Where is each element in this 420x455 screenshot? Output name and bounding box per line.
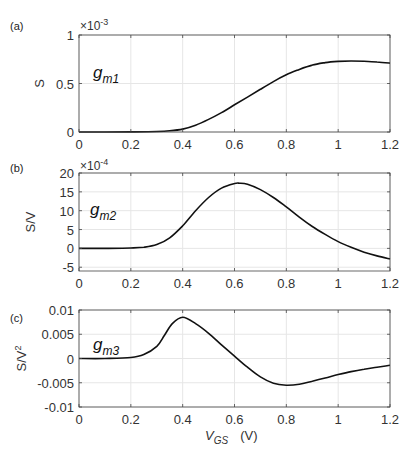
x-tick-label: 0.8 <box>277 412 295 427</box>
x-tick-label: 0.4 <box>174 137 192 152</box>
x-tick-label: 0.4 <box>174 412 192 427</box>
panel-label: (c) <box>10 312 23 324</box>
x-tick-label: 0 <box>75 412 82 427</box>
x-tick-label: 0.6 <box>225 276 243 291</box>
y-tick-label: 20 <box>60 166 74 181</box>
y-tick-label: -0.005 <box>37 376 74 391</box>
y-axis-label: S/V2 <box>13 346 29 372</box>
x-tick-label: 0.8 <box>277 137 295 152</box>
y-tick-label: -5 <box>62 260 74 275</box>
y-tick-label: 5 <box>67 223 74 238</box>
x-tick-label: 0.2 <box>122 137 140 152</box>
x-tick-label: 1.2 <box>381 412 399 427</box>
x-tick-label: 0.6 <box>225 412 243 427</box>
panel-label: (a) <box>10 20 23 32</box>
x-tick-label: 1.2 <box>381 137 399 152</box>
x-tick-label: 1 <box>335 412 342 427</box>
panel-3: 00.20.40.60.811.2-0.01-0.00500.0050.01(c… <box>10 303 399 446</box>
x-axis-label: VGS(V) <box>205 428 257 446</box>
y-axis-label: S <box>32 79 47 88</box>
x-tick-label: 1 <box>335 276 342 291</box>
y-tick-label: 0.5 <box>56 77 74 92</box>
panel-2: 00.20.40.60.811.2-505101520(b)×10-4S/Vgm… <box>10 157 399 291</box>
x-tick-label: 0 <box>75 276 82 291</box>
y-tick-label: 0.005 <box>41 327 74 342</box>
panel-1: 00.20.40.60.811.200.51(a)×10-3Sgm1 <box>10 17 399 152</box>
x-tick-label: 1 <box>335 137 342 152</box>
x-tick-label: 0.2 <box>122 412 140 427</box>
panel-label: (b) <box>10 162 23 174</box>
y-tick-label: 10 <box>60 204 74 219</box>
x-tick-label: 1.2 <box>381 276 399 291</box>
y-tick-label: 0 <box>67 125 74 140</box>
y-tick-label: 15 <box>60 185 74 200</box>
y-tick-label: 0 <box>67 352 74 367</box>
y-tick-label: 0.01 <box>49 303 74 318</box>
x-tick-label: 0.2 <box>122 276 140 291</box>
y-tick-label: 0 <box>67 241 74 256</box>
x-tick-label: 0.6 <box>225 137 243 152</box>
y-tick-label: -0.01 <box>44 400 74 415</box>
exponent-label: ×10-3 <box>80 17 108 33</box>
x-tick-label: 0.4 <box>174 276 192 291</box>
x-tick-label: 0.8 <box>277 276 295 291</box>
chart-figure: 00.20.40.60.811.200.51(a)×10-3Sgm100.20.… <box>0 0 420 455</box>
exponent-label: ×10-4 <box>80 157 108 173</box>
x-tick-label: 0 <box>75 137 82 152</box>
y-axis-label: S/V <box>23 211 38 232</box>
y-tick-label: 1 <box>67 28 74 43</box>
